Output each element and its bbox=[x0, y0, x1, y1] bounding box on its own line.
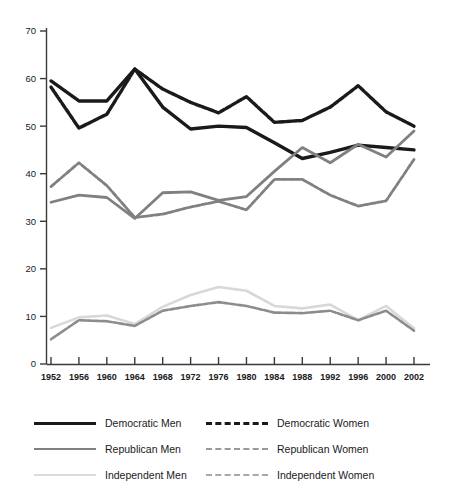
legend-item-republican-women[interactable]: Republican Women bbox=[206, 443, 434, 455]
legend-swatch-dashed-line-icon bbox=[206, 474, 268, 476]
legend-swatch-solid-line-icon bbox=[34, 422, 96, 425]
legend-swatch-dashed-line-icon bbox=[206, 422, 268, 425]
x-axis-tick-label: 1952 bbox=[41, 372, 61, 382]
y-axis-tick-label: 60 bbox=[25, 73, 36, 84]
legend-swatch-dashed-line-icon bbox=[206, 448, 268, 450]
series-line-democratic-women bbox=[51, 69, 414, 128]
legend-item-independent-men[interactable]: Independent Men bbox=[34, 469, 206, 481]
y-axis-tick-label: 10 bbox=[25, 311, 36, 322]
x-axis-ticks bbox=[51, 357, 414, 365]
chart-legend: Democratic MenDemocratic WomenRepublican… bbox=[0, 404, 453, 497]
legend-label: Independent Women bbox=[277, 469, 374, 481]
y-axis-tick-label: 70 bbox=[25, 25, 36, 36]
y-axis-tick-label: 0 bbox=[31, 358, 36, 369]
x-axis-tick-labels: 1952195619601964196819721976198019841988… bbox=[41, 372, 424, 382]
legend-item-democratic-men[interactable]: Democratic Men bbox=[34, 417, 206, 429]
x-axis-tick-label: 1996 bbox=[348, 372, 368, 382]
legend-grid: Democratic MenDemocratic WomenRepublican… bbox=[34, 410, 434, 488]
series-line-independent-women bbox=[51, 302, 414, 339]
legend-label: Democratic Women bbox=[277, 417, 369, 429]
x-axis-tick-label: 1984 bbox=[264, 372, 284, 382]
x-axis-tick-label: 1976 bbox=[209, 372, 229, 382]
legend-swatch-solid-line-icon bbox=[34, 448, 96, 450]
chart-figure: 010203040506070 195219561960196419681972… bbox=[0, 0, 453, 497]
x-axis-tick-label: 1968 bbox=[153, 372, 173, 382]
x-axis-tick-label: 1980 bbox=[236, 372, 256, 382]
x-axis-tick-label: 1988 bbox=[292, 372, 312, 382]
x-axis-tick-label: 1956 bbox=[69, 372, 89, 382]
y-axis-ticks bbox=[40, 31, 47, 364]
x-axis-tick-label: 1960 bbox=[97, 372, 117, 382]
x-axis-tick-label: 2000 bbox=[376, 372, 396, 382]
y-axis-tick-label: 20 bbox=[25, 263, 36, 274]
y-axis-tick-label: 30 bbox=[25, 216, 36, 227]
legend-label: Republican Men bbox=[105, 443, 181, 455]
legend-item-independent-women[interactable]: Independent Women bbox=[206, 469, 434, 481]
legend-item-republican-men[interactable]: Republican Men bbox=[34, 443, 206, 455]
legend-label: Democratic Men bbox=[105, 417, 181, 429]
y-axis-tick-labels: 010203040506070 bbox=[25, 25, 36, 369]
legend-swatch-solid-line-icon bbox=[34, 474, 96, 476]
legend-item-democratic-women[interactable]: Democratic Women bbox=[206, 417, 434, 429]
legend-label: Independent Men bbox=[105, 469, 187, 481]
line-chart-plot: 010203040506070 195219561960196419681972… bbox=[0, 0, 453, 395]
x-axis-tick-label: 1964 bbox=[125, 372, 145, 382]
series-line-republican-women bbox=[51, 159, 414, 217]
y-axis-tick-label: 50 bbox=[25, 121, 36, 132]
x-axis-tick-label: 1992 bbox=[320, 372, 340, 382]
x-axis-tick-label: 1972 bbox=[181, 372, 201, 382]
chart-svg: 010203040506070 195219561960196419681972… bbox=[0, 0, 453, 395]
series-lines-group bbox=[51, 69, 414, 339]
y-axis-tick-label: 40 bbox=[25, 168, 36, 179]
legend-label: Republican Women bbox=[277, 443, 368, 455]
x-axis-tick-label: 2002 bbox=[404, 372, 424, 382]
